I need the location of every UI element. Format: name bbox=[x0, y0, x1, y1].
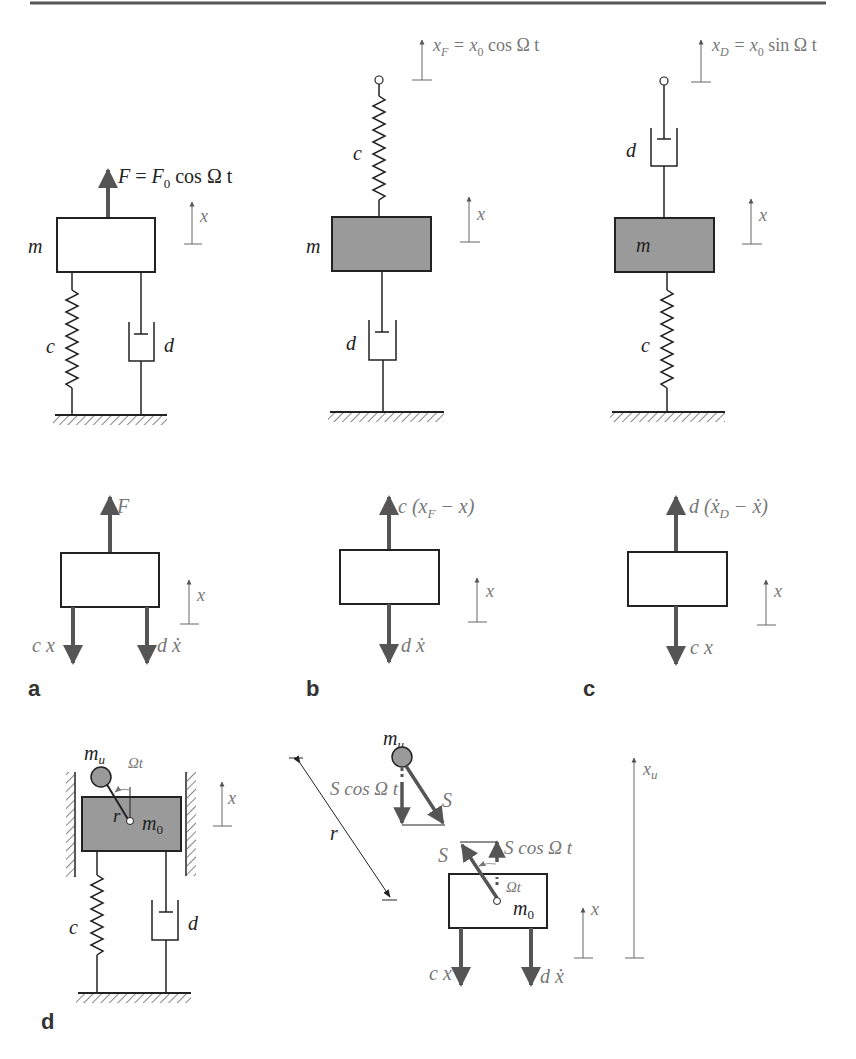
down-force-right-label: d ẋ bbox=[540, 965, 564, 987]
excitation-pin bbox=[660, 77, 668, 85]
panel-c-fbd: d (ẋD − ẋ) c x x bbox=[628, 495, 782, 664]
mass-block bbox=[61, 553, 159, 607]
panel-a-fbd: F c x d ẋ x bbox=[32, 495, 205, 663]
damper-label: d bbox=[188, 912, 199, 934]
angle-label: Ωt bbox=[506, 879, 522, 895]
ground-hatch bbox=[328, 413, 444, 422]
down-force-left-label: c x bbox=[32, 634, 55, 656]
right-wall-hatch bbox=[187, 772, 196, 876]
radius-label: r bbox=[113, 805, 121, 826]
panel-label-a: a bbox=[28, 676, 41, 701]
coord-x-label: x bbox=[476, 204, 485, 224]
panel-label-b: b bbox=[306, 676, 319, 701]
unbalance-mass bbox=[91, 767, 111, 787]
coord-x-label: x bbox=[227, 788, 236, 808]
coord-x-label: x bbox=[773, 581, 782, 601]
spring bbox=[66, 272, 78, 415]
force-S-lower-label: S bbox=[438, 844, 448, 866]
mass-label: m bbox=[636, 234, 650, 256]
coord-x-label: x bbox=[199, 206, 208, 226]
force-S-upper-label: S bbox=[442, 789, 452, 811]
ground-hatch bbox=[76, 994, 191, 1003]
unbalance-mass bbox=[392, 747, 412, 767]
damper-label: d bbox=[626, 139, 637, 161]
excitation-label: xD = x0 sin Ω t bbox=[711, 35, 817, 59]
rotation-center bbox=[127, 818, 134, 825]
radius-label: r bbox=[330, 822, 338, 844]
spring-label: c bbox=[69, 916, 78, 938]
coord-x-label: x bbox=[590, 899, 599, 919]
mass-label: m bbox=[306, 235, 320, 257]
mass-block bbox=[332, 217, 431, 271]
mass-label: m bbox=[28, 235, 42, 257]
panel-a-model: F = F0 cos Ω t m c d x bbox=[28, 165, 233, 425]
damper-label: d bbox=[164, 334, 175, 356]
up-force-label: c (xF − x) bbox=[398, 495, 475, 521]
panel-b-fbd: c (xF − x) d ẋ x bbox=[340, 495, 494, 662]
ground-hatch bbox=[610, 413, 725, 422]
panel-d-fbd: r mu S cos Ω t S S cos Ω t S Ωt m0 c x d… bbox=[289, 727, 658, 987]
down-force-label: d ẋ bbox=[401, 634, 425, 656]
panel-d-model: mu Ωt r m0 c d x bbox=[66, 742, 236, 1003]
mass-block bbox=[615, 218, 714, 272]
up-force-label: F bbox=[116, 495, 130, 517]
spring-mass-damper-figure: F = F0 cos Ω t m c d x xF = x0 cos Ω bbox=[0, 0, 856, 1059]
damper-label: d bbox=[346, 332, 357, 354]
force-label: F = F0 cos Ω t bbox=[117, 165, 233, 191]
up-force-label: d (ẋD − ẋ) bbox=[689, 495, 768, 521]
mass-block bbox=[628, 552, 727, 606]
excitation-pin bbox=[375, 76, 383, 84]
coord-x-label: x bbox=[196, 585, 205, 605]
damper bbox=[369, 271, 396, 412]
down-force-label: c x bbox=[690, 636, 713, 658]
unbalance-mass-label: mu bbox=[84, 742, 105, 767]
spring bbox=[373, 96, 385, 200]
spring-label: c bbox=[46, 335, 55, 357]
coord-x-label: x bbox=[758, 205, 767, 225]
damper bbox=[129, 272, 154, 415]
panel-b-model: xF = x0 cos Ω t c m d x bbox=[306, 35, 539, 422]
angle-label: Ωt bbox=[128, 755, 144, 771]
force-comp-lower-label: S cos Ω t bbox=[504, 837, 573, 858]
panel-label-c: c bbox=[583, 676, 595, 701]
damper bbox=[152, 851, 178, 993]
down-force-left-label: c x bbox=[429, 962, 452, 984]
spring-label: c bbox=[641, 334, 650, 356]
coord-x-label: x bbox=[485, 581, 494, 601]
ground-hatch bbox=[53, 416, 167, 425]
panel-c-model: xD = x0 sin Ω t d m c x bbox=[610, 35, 817, 422]
rotation-center bbox=[494, 898, 501, 905]
mass-block bbox=[340, 550, 439, 604]
coord-xu-label: xu bbox=[642, 759, 658, 782]
panel-label-d: d bbox=[41, 1009, 54, 1034]
damper bbox=[651, 85, 677, 218]
excitation-label: xF = x0 cos Ω t bbox=[432, 35, 539, 59]
mass-block bbox=[57, 218, 155, 272]
down-force-right-label: d ẋ bbox=[157, 634, 181, 656]
left-wall-hatch bbox=[66, 772, 75, 877]
spring-label: c bbox=[353, 142, 362, 164]
force-comp-upper-label: S cos Ω t bbox=[330, 778, 399, 799]
spring bbox=[661, 290, 673, 388]
spring bbox=[91, 875, 103, 955]
